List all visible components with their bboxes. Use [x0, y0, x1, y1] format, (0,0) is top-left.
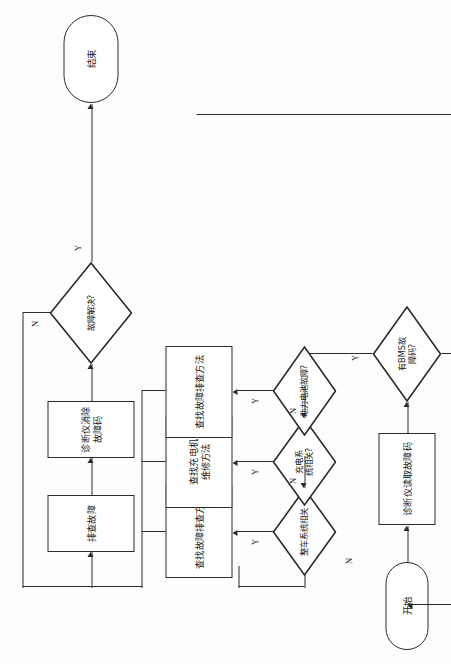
bus-stub-find-method-2 — [141, 390, 165, 391]
edge-top-no-down — [22, 586, 91, 587]
node-has-bms-dtc-label: 有BMS故 障码? — [372, 306, 441, 402]
node-resolved-top-label: 故障解决? — [49, 262, 132, 364]
node-has-bms-dtc: 有BMS故 障码? — [372, 306, 441, 402]
node-resolved-top: 故障解决? — [49, 262, 132, 364]
arrowhead-troubleshoot-to-clear-dtc — [87, 458, 93, 463]
edge-label-sys-yes: Y — [250, 539, 259, 545]
edge-charge-yes-vertical — [237, 461, 273, 462]
arrowhead-battery-yes — [232, 389, 237, 395]
node-start: 开始 — [385, 562, 428, 650]
edge-battery-yes-vertical — [237, 390, 273, 391]
edge-clear-dtc-to-resolved-top — [91, 364, 92, 401]
edge-top-no-up — [22, 312, 50, 313]
edge-top-no-left — [22, 313, 23, 588]
bus-stub-find-method-1 — [141, 531, 165, 532]
edge-label-top-yes: Y — [73, 245, 82, 251]
bus-stub-find-charger-repair — [141, 461, 165, 462]
arrowhead-charge-yes — [232, 460, 237, 466]
arrowhead-read-dtc-to-bms — [403, 402, 409, 407]
flowchart-canvas: 开始 诊断仪读取故障码 有BMS故 障码? Y — [0, 0, 451, 664]
edge-label-charge-yes: Y — [250, 469, 259, 475]
edge-sys-no-join — [238, 566, 239, 588]
arrowhead-sys-yes — [232, 530, 237, 536]
scan-edge-marginalia: · · · — [438, 250, 448, 580]
node-clear-dtc-label: 诊断仪消除故障码 — [79, 404, 101, 455]
arrowhead-bottom-no-loop — [407, 603, 412, 609]
node-end-label: 结束 — [85, 50, 96, 68]
bus-horizontal — [141, 391, 142, 588]
node-read-dtc: 诊断仪读取故障码 — [378, 433, 435, 525]
bus-riser-to-troubleshoot — [91, 586, 142, 587]
node-find-method-2-label: 查找故障排查方法 — [193, 355, 204, 429]
edge-start-to-read-dtc — [407, 526, 408, 562]
arrowhead-into-troubleshoot — [87, 552, 93, 557]
edge-label-battery-yes: Y — [250, 398, 259, 404]
edge-bottom-yes-vertical-to-end — [196, 114, 451, 115]
edge-sys-yes-vertical — [237, 531, 273, 532]
bus-into-troubleshoot — [91, 552, 92, 588]
edge-bottom-no-up — [407, 604, 451, 605]
edge-label-top-no: N — [30, 321, 39, 327]
edge-sys-no-up — [238, 586, 304, 587]
arrowhead-battery-no — [300, 413, 306, 418]
arrowhead-clear-dtc-to-resolved-top — [87, 364, 93, 369]
node-end: 结束 — [63, 15, 118, 103]
node-troubleshoot-label: 排查故障 — [85, 505, 96, 542]
edge-top-yes-to-end — [91, 104, 92, 262]
edge-label-bms-yes: Y — [350, 355, 359, 361]
node-find-method-2: 查找故障排查方法 — [165, 346, 232, 438]
arrowhead-charge-no — [300, 483, 306, 488]
arrowhead-into-end — [87, 104, 93, 109]
arrowhead-start-to-read-dtc — [403, 526, 409, 531]
node-find-charger-repair-label: 查找充电机 维修方法 — [187, 439, 209, 485]
edge-label-sys-no: N — [344, 558, 353, 564]
node-clear-dtc: 诊断仪消除故障码 — [47, 401, 134, 458]
node-troubleshoot: 排查故障 — [47, 495, 134, 552]
flowchart-rotation-wrapper: 开始 诊断仪读取故障码 有BMS故 障码? Y — [0, 0, 451, 664]
edge-troubleshoot-to-clear-dtc — [91, 458, 92, 495]
scanned-page: 开始 诊断仪读取故障码 有BMS故 障码? Y — [0, 0, 451, 664]
edge-label-battery-no: N — [288, 408, 297, 414]
node-read-dtc-label: 诊断仪读取故障码 — [401, 442, 412, 516]
edge-label-charge-no: N — [288, 478, 297, 484]
